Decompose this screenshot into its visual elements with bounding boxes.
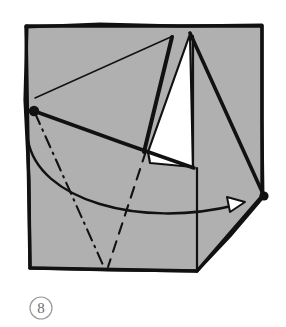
paper-edge-top	[26, 24, 262, 27]
origami-diagram: 8	[0, 0, 286, 327]
paper-edge-right	[262, 26, 263, 196]
corner-dot-left	[29, 106, 39, 116]
origami-figure-panel: 8	[0, 0, 286, 327]
step-number-label: 8	[37, 300, 45, 316]
corner-dot-right	[259, 191, 268, 200]
